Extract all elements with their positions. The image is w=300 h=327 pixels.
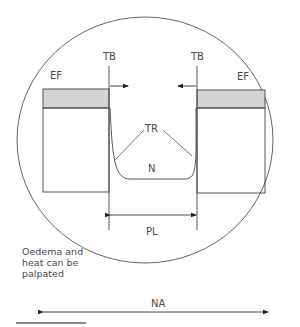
- palpation-note-line2: heat can be: [22, 257, 102, 268]
- label-ef-left: EF: [50, 71, 62, 81]
- palpation-note-line1: Oedema and: [22, 246, 102, 257]
- right-epidermis-band: [197, 90, 265, 108]
- left-tissue-block: [43, 108, 109, 192]
- label-ef-right: EF: [237, 72, 249, 82]
- area-ellipse: [17, 17, 273, 263]
- left-epidermis-band: [43, 89, 109, 108]
- label-tb-right: TB: [191, 52, 204, 62]
- palpation-note: Oedema and heat can be palpated: [22, 246, 102, 279]
- label-na: NA: [151, 299, 165, 309]
- palpation-note-line3: palpated: [22, 268, 102, 279]
- tr-pointer-right: [163, 130, 192, 156]
- tr-pointer-left: [115, 130, 144, 160]
- right-tissue-block: [197, 108, 265, 193]
- label-tr: TR: [145, 124, 158, 134]
- label-tb-left: TB: [103, 52, 116, 62]
- label-pl: PL: [146, 227, 158, 237]
- label-n: N: [148, 164, 155, 174]
